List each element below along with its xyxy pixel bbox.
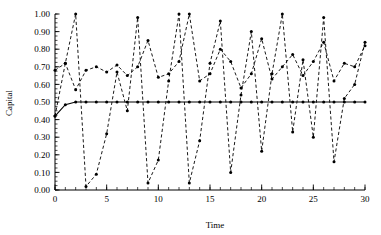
x-axis: 051015202530 (53, 185, 370, 205)
data-point (219, 101, 222, 104)
data-point (85, 185, 88, 188)
y-axis-title: Capital (4, 90, 14, 116)
data-point (54, 69, 57, 72)
data-point (178, 101, 181, 104)
data-point (260, 37, 263, 40)
data-point (291, 53, 294, 56)
data-point (167, 79, 170, 82)
data-point (353, 101, 356, 104)
data-point (219, 48, 222, 51)
data-point (281, 101, 284, 104)
data-point (353, 65, 356, 68)
data-point (136, 16, 139, 19)
data-point (105, 101, 108, 104)
data-point (322, 16, 325, 19)
data-point (95, 101, 98, 104)
data-point (188, 181, 191, 184)
data-point (281, 65, 284, 68)
data-point (126, 74, 129, 77)
data-point (322, 101, 325, 104)
axes-layer: 0.000.100.200.300.400.500.600.700.800.90… (34, 9, 370, 204)
x-tick-label: 20 (257, 194, 267, 204)
data-point (250, 30, 253, 33)
data-point (312, 136, 315, 139)
data-point (178, 13, 181, 16)
data-point (95, 173, 98, 176)
data-point (333, 79, 336, 82)
data-point (85, 101, 88, 104)
x-tick-label: 5 (104, 194, 109, 204)
data-point (291, 130, 294, 133)
data-point (322, 41, 325, 44)
data-point (167, 101, 170, 104)
data-point (95, 65, 98, 68)
y-tick-label: 0.30 (34, 132, 50, 142)
data-point (64, 103, 67, 106)
data-point (126, 109, 129, 112)
y-tick-label: 1.00 (34, 9, 50, 19)
y-tick-label: 0.80 (34, 44, 50, 54)
y-tick-label: 0.50 (34, 97, 50, 107)
x-tick-label: 25 (309, 194, 319, 204)
data-point (302, 101, 305, 104)
data-point (136, 65, 139, 68)
data-point (85, 69, 88, 72)
x-tick-label: 30 (361, 194, 371, 204)
x-axis-title: Time (206, 220, 225, 230)
y-tick-label: 0.40 (34, 115, 50, 125)
series-sawtooth-capital (54, 13, 367, 188)
y-tick-label: 0.10 (34, 168, 50, 178)
y-tick-label: 0.90 (34, 27, 50, 37)
data-point (260, 101, 263, 104)
data-point (240, 93, 243, 96)
data-point (333, 160, 336, 163)
data-point (250, 72, 253, 75)
y-tick-label: 0.00 (34, 185, 50, 195)
data-point (157, 101, 160, 104)
data-point (260, 150, 263, 153)
data-point (198, 79, 201, 82)
series-oscillating-capital (54, 13, 367, 92)
series-steady-capital (54, 101, 367, 118)
data-series-layer (54, 13, 367, 188)
data-point (229, 171, 232, 174)
data-point (281, 13, 284, 16)
data-point (116, 64, 119, 67)
data-point (105, 71, 108, 74)
data-point (64, 62, 67, 65)
data-point (136, 101, 139, 104)
data-point (302, 74, 305, 77)
data-point (198, 101, 201, 104)
data-point (74, 13, 77, 16)
data-point (353, 83, 356, 86)
data-point (312, 60, 315, 63)
chart-figure: 0.000.100.200.300.400.500.600.700.800.90… (0, 0, 381, 235)
data-point (240, 101, 243, 104)
y-axis: 0.000.100.200.300.400.500.600.700.800.90… (34, 9, 59, 195)
data-point (229, 60, 232, 63)
data-point (188, 101, 191, 104)
y-tick-label: 0.60 (34, 80, 50, 90)
data-point (157, 159, 160, 162)
data-point (147, 39, 150, 42)
data-point (116, 71, 119, 74)
data-point (271, 78, 274, 81)
data-point (333, 101, 336, 104)
data-point (74, 88, 77, 91)
data-point (157, 76, 160, 79)
data-point (271, 101, 274, 104)
y-tick-label: 0.70 (34, 62, 50, 72)
capital-vs-time-chart: 0.000.100.200.300.400.500.600.700.800.90… (0, 0, 381, 235)
data-point (343, 97, 346, 100)
data-point (271, 72, 274, 75)
data-point (209, 62, 212, 65)
x-tick-label: 15 (206, 194, 216, 204)
data-point (312, 101, 315, 104)
data-point (147, 181, 150, 184)
data-point (178, 60, 181, 63)
x-tick-label: 0 (53, 194, 58, 204)
data-point (343, 62, 346, 65)
data-point (291, 101, 294, 104)
data-point (105, 132, 108, 135)
x-tick-label: 10 (154, 194, 164, 204)
